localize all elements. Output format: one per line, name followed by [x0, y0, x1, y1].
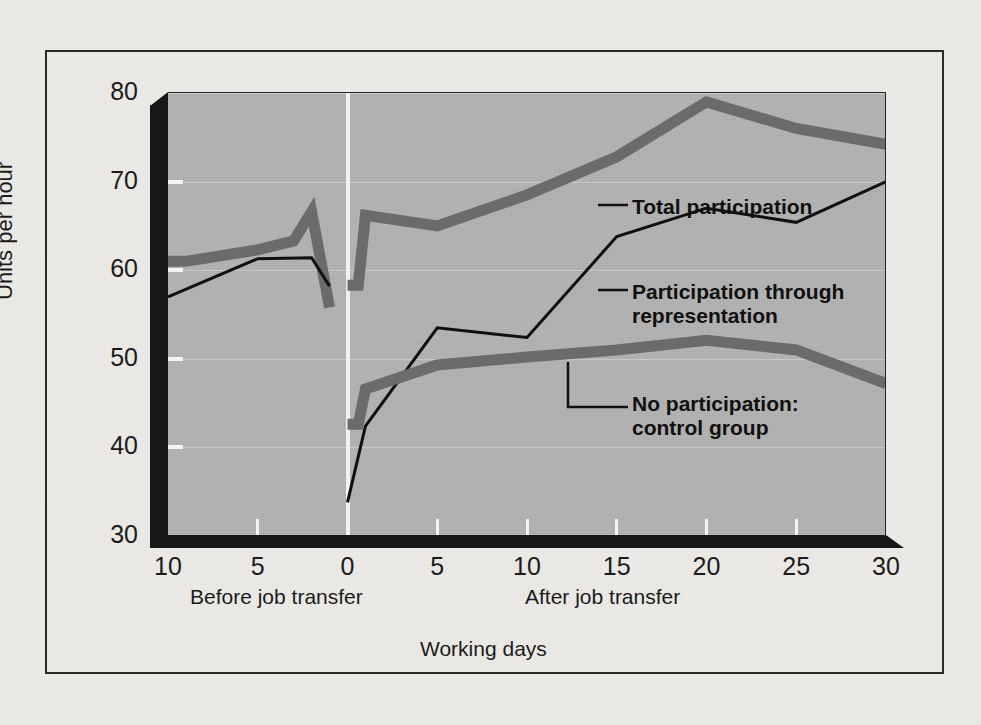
y-axis-label-60: 60 [92, 254, 138, 283]
x-axis-title: Working days [420, 637, 547, 661]
plot-3d-floor [150, 535, 886, 548]
y-axis-title: Units per hour [0, 162, 18, 300]
y-axis-label-80: 80 [92, 77, 138, 106]
annotation-total-participation: Total participation [632, 195, 812, 219]
y-axis-label-50: 50 [92, 343, 138, 372]
annotation-no-participation-control-group: No participation: control group [632, 392, 799, 440]
caption-before-job-transfer: Before job transfer [190, 585, 363, 609]
y-axis-label-30: 30 [92, 520, 138, 549]
plot-3d-left-wall [150, 105, 168, 548]
series-line-total-participation-before [168, 212, 330, 308]
caption-after-job-transfer: After job transfer [525, 585, 680, 609]
x-axis-label-4: 10 [497, 552, 557, 581]
x-axis-label-7: 25 [766, 552, 826, 581]
x-axis-label-3: 5 [407, 552, 467, 581]
series-line-total-participation-after [348, 102, 887, 285]
annotation-participation-through-representation: Participation through representation [632, 280, 844, 328]
plot-3d-corner-topleft [150, 92, 168, 106]
plot-3d-corner-bottomright [886, 535, 904, 548]
x-axis-label-0: 10 [138, 552, 198, 581]
y-axis-label-70: 70 [92, 166, 138, 195]
x-axis-label-8: 30 [856, 552, 916, 581]
chart-figure: 304050607080 105051015202530 Units per h… [0, 0, 981, 725]
y-axis-label-40: 40 [92, 431, 138, 460]
series-line-no-participation-control-group-after [348, 340, 887, 424]
x-axis-label-5: 15 [587, 552, 647, 581]
x-axis-label-6: 20 [677, 552, 737, 581]
x-axis-label-1: 5 [228, 552, 288, 581]
x-axis-label-2: 0 [318, 552, 378, 581]
